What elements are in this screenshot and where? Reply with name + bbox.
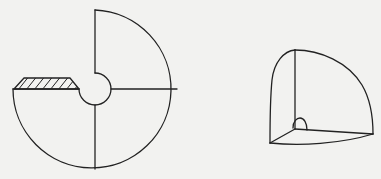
- octant-left-edge: [270, 129, 295, 143]
- geometry-figures: [0, 0, 381, 179]
- diagram-canvas: [0, 0, 381, 179]
- octant-right-curve: [295, 50, 373, 134]
- inner-circle-arc: [79, 73, 111, 105]
- spherical-octant-figure: [270, 50, 373, 144]
- octant-bottom-curve: [270, 134, 373, 144]
- octant-left-curve: [270, 50, 295, 143]
- three-quarter-disc-figure: [6, 10, 177, 169]
